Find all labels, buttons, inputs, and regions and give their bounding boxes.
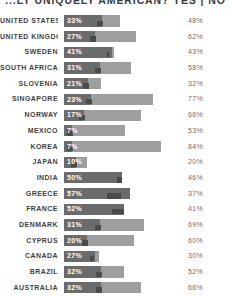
bar-area: 32% (64, 264, 180, 280)
row-label-mexico: MEXICO (0, 123, 58, 139)
bar-yes-end-marker (86, 99, 92, 104)
bar-area: 27% (64, 29, 180, 45)
bar-value-yes: 23% (67, 95, 82, 105)
bar-area: 33% (64, 13, 180, 29)
bar-value-yes: 50% (67, 173, 82, 183)
bar-value-yes: 52% (67, 204, 82, 214)
chart-row: SWEDEN41%43% (0, 44, 231, 60)
bar-value-yes: 31% (67, 220, 82, 230)
row-label-sweden: SWEDEN (0, 44, 58, 60)
chart-title: ...LY UNIQUELY AMERICAN? YES | NO (0, 0, 231, 6)
chart-row: INDIA50%46% (0, 170, 231, 186)
chart-root: ...LY UNIQUELY AMERICAN? YES | NO UNITED… (0, 0, 231, 297)
chart-row: AUSTRALIA32%66% (0, 280, 231, 296)
bar-value-no: 58% (188, 60, 226, 76)
bar-yes-end-marker (82, 240, 88, 245)
bar-value-yes: 32% (67, 267, 82, 277)
bar-value-no: 20% (188, 154, 226, 170)
bar-yes-end-marker (95, 225, 101, 230)
chart-row: DENMARK31%69% (0, 217, 231, 233)
row-label-korea: KOREA (0, 139, 58, 155)
row-label-australia: AUSTRALIA (0, 280, 58, 296)
bar-value-yes: 7% (67, 126, 78, 136)
bar-yes-end-marker (96, 287, 102, 292)
row-label-united-kingdom: UNITED KINGDOM (0, 29, 58, 45)
bar-yes-end-marker (95, 68, 101, 73)
bar-yes-end-marker (97, 21, 103, 26)
chart-row: CANADA27%30% (0, 248, 231, 264)
bar-yes-end-marker (96, 272, 102, 277)
bar-value-no: 77% (188, 91, 226, 107)
row-label-united-states: UNITED STATES (0, 13, 58, 29)
row-label-slovenia: SLOVENIA (0, 76, 58, 92)
bar-yes-end-marker (90, 36, 96, 41)
chart-row: KOREA7%84% (0, 139, 231, 155)
bar-value-yes: 21% (67, 79, 82, 89)
chart-row: UNITED STATES33%48% (0, 13, 231, 29)
bar-yes-end-marker (107, 193, 121, 198)
bar-area: 50% (64, 170, 180, 186)
bar-value-yes: 41% (67, 47, 82, 57)
bar-value-no: 48% (188, 13, 226, 29)
bar-area: 57% (64, 186, 180, 202)
bar-value-no: 43% (188, 44, 226, 60)
bar-area: 31% (64, 217, 180, 233)
row-label-canada: CANADA (0, 248, 58, 264)
bar-value-yes: 17% (67, 110, 82, 120)
chart-row: BRAZIL32%52% (0, 264, 231, 280)
bar-area: 20% (64, 233, 180, 249)
bar-yes-end-marker (83, 83, 89, 88)
bar-value-yes: 27% (67, 32, 82, 42)
chart-row: CYPRUS20%60% (0, 233, 231, 249)
chart-row: UNITED KINGDOM27%62% (0, 29, 231, 45)
bar-value-no: 46% (188, 170, 226, 186)
bar-area: 27% (64, 248, 180, 264)
bar-value-yes: 10% (67, 157, 82, 167)
bar-value-yes: 27% (67, 251, 82, 261)
bar-area: 52% (64, 201, 180, 217)
bar-yes-end-marker (117, 177, 122, 182)
bar-area: 7% (64, 139, 180, 155)
row-label-denmark: DENMARK (0, 217, 58, 233)
bar-value-no: 41% (188, 201, 226, 217)
bar-value-yes: 32% (67, 283, 82, 293)
bar-area: 32% (64, 280, 180, 296)
chart-row: FRANCE52%41% (0, 201, 231, 217)
bar-area: 7% (64, 123, 180, 139)
bar-area: 23% (64, 91, 180, 107)
bar-value-no: 62% (188, 29, 226, 45)
bar-value-no: 37% (188, 186, 226, 202)
chart-rows: UNITED STATES33%48%UNITED KINGDOM27%62%S… (0, 13, 231, 295)
bar-area: 21% (64, 76, 180, 92)
row-label-japan: JAPAN (0, 154, 58, 170)
chart-row: NORWAY17%66% (0, 107, 231, 123)
bar-value-no: 32% (188, 76, 226, 92)
chart-row: SINGAPORE23%77% (0, 91, 231, 107)
bar-segment-no (64, 141, 161, 152)
bar-value-yes: 7% (67, 142, 78, 152)
bar-yes-end-marker (90, 256, 93, 261)
chart-row: SLOVENIA21%32% (0, 76, 231, 92)
bar-value-no: 69% (188, 217, 226, 233)
bar-value-no: 66% (188, 280, 226, 296)
chart-row: JAPAN10%20% (0, 154, 231, 170)
bar-value-yes: 20% (67, 236, 82, 246)
bar-area: 10% (64, 154, 180, 170)
row-label-france: FRANCE (0, 201, 58, 217)
row-label-south-africa: SOUTH AFRICA (0, 60, 58, 76)
bar-value-yes: 31% (67, 63, 82, 73)
row-label-singapore: SINGAPORE (0, 91, 58, 107)
row-label-india: INDIA (0, 170, 58, 186)
row-label-greece: GREECE (0, 186, 58, 202)
bar-value-no: 52% (188, 264, 226, 280)
bar-area: 31% (64, 60, 180, 76)
bar-value-no: 84% (188, 139, 226, 155)
bar-value-no: 66% (188, 107, 226, 123)
row-label-brazil: BRAZIL (0, 264, 58, 280)
bar-value-no: 60% (188, 233, 226, 249)
chart-row: MEXICO7%53% (0, 123, 231, 139)
bar-area: 17% (64, 107, 180, 123)
bar-value-no: 53% (188, 123, 226, 139)
row-label-cyprus: CYPRUS (0, 233, 58, 249)
bar-value-yes: 57% (67, 189, 82, 199)
